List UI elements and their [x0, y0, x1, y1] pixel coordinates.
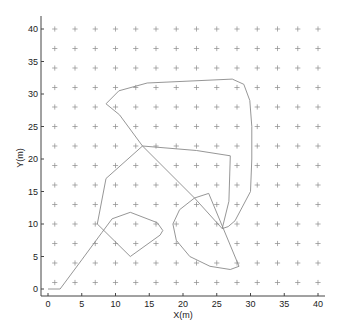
grid-marker — [295, 163, 300, 168]
grid-marker — [234, 182, 239, 187]
grid-marker — [194, 104, 199, 109]
grid-marker — [315, 85, 320, 90]
grid-marker — [93, 182, 98, 187]
grid-marker — [153, 163, 158, 168]
grid-marker — [275, 182, 280, 187]
grid-marker — [174, 65, 179, 70]
grid-marker — [315, 104, 320, 109]
grid-marker — [295, 202, 300, 207]
grid-marker — [153, 241, 158, 246]
grid-marker — [275, 260, 280, 265]
x-tick-label: 15 — [144, 299, 154, 309]
grid-marker — [72, 280, 77, 285]
grid-marker — [52, 46, 57, 51]
x-tick-label: 10 — [110, 299, 120, 309]
grid-marker — [315, 46, 320, 51]
grid-marker — [295, 26, 300, 31]
grid-marker — [275, 143, 280, 148]
grid-marker — [315, 202, 320, 207]
grid-marker — [194, 163, 199, 168]
grid-marker — [174, 104, 179, 109]
grid-marker — [174, 85, 179, 90]
grid-marker — [174, 241, 179, 246]
grid-marker — [234, 221, 239, 226]
grid-marker — [194, 85, 199, 90]
grid-marker — [113, 280, 118, 285]
y-tick-label: 40 — [28, 24, 38, 34]
grid-marker — [174, 26, 179, 31]
grid-marker — [113, 182, 118, 187]
y-tick-label: 5 — [33, 252, 38, 262]
grid-marker — [234, 163, 239, 168]
grid-marker — [174, 280, 179, 285]
grid-marker — [93, 85, 98, 90]
grid-marker — [295, 182, 300, 187]
y-tick-label: 30 — [28, 89, 38, 99]
grid-marker — [93, 143, 98, 148]
grid-marker — [153, 182, 158, 187]
x-tick-label: 20 — [178, 299, 188, 309]
grid-marker — [174, 202, 179, 207]
y-tick-label: 25 — [28, 122, 38, 132]
grid-marker — [72, 241, 77, 246]
grid-marker — [315, 241, 320, 246]
grid-marker — [275, 241, 280, 246]
grid-marker — [275, 280, 280, 285]
grid-marker — [113, 143, 118, 148]
grid-marker — [52, 280, 57, 285]
grid-marker — [133, 104, 138, 109]
grid-marker — [133, 182, 138, 187]
grid-marker — [255, 143, 260, 148]
grid-marker — [194, 65, 199, 70]
grid-marker — [153, 85, 158, 90]
grid-marker — [275, 163, 280, 168]
grid-marker — [133, 46, 138, 51]
chart-canvas: 0510152025303540 0510152025303540 X(m) Y… — [0, 0, 348, 336]
grid-marker — [295, 85, 300, 90]
grid-marker — [315, 26, 320, 31]
grid-marker — [214, 241, 219, 246]
grid-marker — [234, 280, 239, 285]
grid-marker — [174, 124, 179, 129]
grid-marker — [174, 221, 179, 226]
grid-marker — [295, 260, 300, 265]
x-axis-label: X(m) — [173, 310, 193, 320]
grid-marker — [133, 202, 138, 207]
grid-marker — [214, 260, 219, 265]
grid-marker — [214, 124, 219, 129]
grid-marker — [255, 280, 260, 285]
grid-marker — [133, 280, 138, 285]
grid-marker — [153, 143, 158, 148]
grid-marker — [113, 65, 118, 70]
grid-marker — [52, 85, 57, 90]
grid-marker — [234, 202, 239, 207]
grid-marker — [315, 163, 320, 168]
grid-marker — [133, 260, 138, 265]
grid-marker — [194, 280, 199, 285]
x-tick-label: 40 — [313, 299, 323, 309]
grid-marker — [194, 221, 199, 226]
grid-marker — [214, 280, 219, 285]
y-tick-label: 0 — [33, 284, 38, 294]
grid-marker — [275, 124, 280, 129]
grid-marker — [113, 104, 118, 109]
grid-marker — [153, 202, 158, 207]
grid-marker — [275, 104, 280, 109]
grid-marker — [295, 65, 300, 70]
grid-marker — [174, 46, 179, 51]
grid-marker — [214, 143, 219, 148]
grid-marker — [234, 124, 239, 129]
y-tick-label: 10 — [28, 219, 38, 229]
grid-marker — [93, 260, 98, 265]
grid-marker — [214, 104, 219, 109]
x-tick-label: 25 — [212, 299, 222, 309]
grid-marker — [113, 85, 118, 90]
y-tick-label: 35 — [28, 57, 38, 67]
grid-marker — [93, 46, 98, 51]
grid-marker — [93, 104, 98, 109]
grid-marker — [52, 26, 57, 31]
grid-marker — [194, 46, 199, 51]
grid-marker — [72, 202, 77, 207]
grid-marker — [93, 26, 98, 31]
grid-marker — [133, 143, 138, 148]
